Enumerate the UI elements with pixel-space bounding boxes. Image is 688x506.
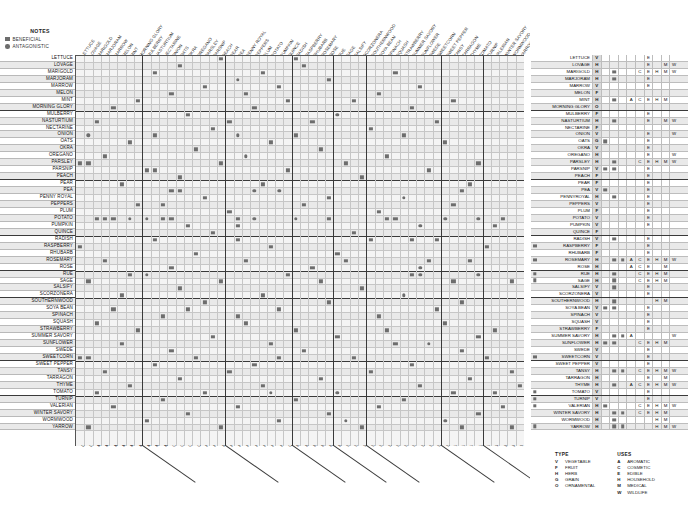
- beneficial-marker-icon: [186, 412, 190, 415]
- beneficial-marker-icon: [335, 335, 339, 338]
- row-label: WINTER SAVORY: [0, 410, 75, 417]
- attr-use-cell: [626, 145, 635, 151]
- check-marker-icon: [612, 237, 616, 240]
- attr-soil-improver-cell: [601, 194, 610, 200]
- attr-row-marker: [531, 90, 539, 96]
- beneficial-marker-icon: [435, 308, 439, 311]
- attr-type-cell: V: [592, 319, 601, 325]
- row-label: SAGE: [0, 278, 75, 285]
- attr-use-cell: W: [669, 118, 678, 124]
- attr-use-cell: E: [644, 208, 653, 214]
- attr-soil-improver-cell: [601, 278, 610, 284]
- attr-row-marker: [531, 340, 539, 346]
- attr-plant-name: PEPPERS: [539, 201, 592, 207]
- attr-repels-insects-cell: [609, 284, 618, 290]
- attr-type-cell: H: [592, 382, 601, 388]
- attribute-row: PENNYROYALHE: [531, 194, 688, 201]
- beneficial-marker-icon: [202, 391, 206, 394]
- beneficial-marker-icon: [227, 120, 231, 123]
- attr-plant-name: MULBERRY: [539, 111, 592, 117]
- row-label: MARJORAM: [0, 76, 75, 83]
- beneficial-marker-icon: [252, 363, 256, 366]
- beneficial-marker-icon: [509, 280, 513, 283]
- beneficial-marker-icon: [393, 342, 397, 345]
- attr-use-cell: E: [644, 187, 653, 193]
- attr-use-cell: [635, 187, 644, 193]
- attr-use-cell: [661, 215, 670, 221]
- attribute-row: PEPPERSVE: [531, 201, 688, 208]
- beneficial-marker-icon: [468, 182, 472, 185]
- attr-soil-improver-cell: [601, 347, 610, 353]
- attr-row-marker: [531, 424, 539, 430]
- attribute-row: RHUBARBFE: [531, 250, 688, 257]
- beneficial-marker-icon: [161, 217, 165, 220]
- companion-matrix[interactable]: [75, 55, 524, 446]
- attr-soil-improver-cell: [601, 208, 610, 214]
- attr-use-cell: [661, 222, 670, 228]
- attribute-row: OATSGE: [531, 138, 688, 145]
- beneficial-marker-icon: [460, 301, 464, 304]
- attr-plant-name: PARSNIP: [539, 166, 592, 172]
- beneficial-marker-icon: [153, 134, 157, 137]
- row-label: RADISH: [0, 236, 75, 243]
- attr-use-cell: [626, 354, 635, 360]
- attr-repels-insects-cell: [609, 326, 618, 332]
- attr-repels-insects-cell: [609, 291, 618, 297]
- attr-plant-name: NECTARINE: [539, 125, 592, 131]
- beneficial-marker-icon: [402, 134, 406, 137]
- attr-use-cell: [626, 201, 635, 207]
- beneficial-marker-icon: [178, 189, 182, 192]
- attr-use-cell: C: [635, 410, 644, 416]
- attr-use-cell: [669, 243, 678, 249]
- attr-use-cell: E: [644, 271, 653, 277]
- attr-attracts-bees-cell: [618, 111, 627, 117]
- beneficial-marker-icon: [327, 217, 331, 220]
- attr-type-cell: V: [592, 222, 601, 228]
- attr-attracts-bees-cell: [618, 333, 627, 339]
- attr-attracts-bees-cell: [618, 125, 627, 131]
- row-label: NASTURTIUM: [0, 118, 75, 125]
- attr-use-cell: H: [652, 69, 661, 75]
- attr-plant-name: SUMMER SAVORY: [539, 333, 592, 339]
- beneficial-marker-icon: [169, 189, 173, 192]
- attr-use-cell: [652, 361, 661, 367]
- attr-use-cell: H: [652, 410, 661, 416]
- beneficial-marker-icon: [476, 412, 480, 415]
- antagonistic-marker-icon: [128, 217, 131, 220]
- attr-repels-insects-cell: [609, 138, 618, 144]
- attr-use-cell: [635, 215, 644, 221]
- attr-use-cell: M: [661, 375, 670, 381]
- attr-use-cell: [635, 250, 644, 256]
- attr-use-cell: W: [669, 403, 678, 409]
- attr-soil-improver-cell: [601, 319, 610, 325]
- attr-use-cell: [635, 145, 644, 151]
- attr-soil-improver-cell: [601, 298, 610, 304]
- attr-plant-name: NASTURTIUM: [539, 118, 592, 124]
- attr-type-cell: H: [592, 278, 601, 284]
- check-marker-icon: [612, 161, 616, 164]
- attr-use-cell: [635, 76, 644, 82]
- row-label: TURNIP: [0, 396, 75, 403]
- attr-use-cell: [635, 83, 644, 89]
- check-marker-icon: [612, 286, 616, 289]
- attr-plant-name: SCORZONERA: [539, 291, 592, 297]
- attr-type-cell: H: [592, 333, 601, 339]
- attribute-row: VALERIANHCEHMW: [531, 403, 688, 410]
- attr-use-cell: [626, 298, 635, 304]
- attr-soil-improver-cell: [601, 62, 610, 68]
- beneficial-marker-icon: [352, 99, 356, 102]
- attr-use-cell: [626, 291, 635, 297]
- attr-use-cell: [635, 361, 644, 367]
- notes-title: NOTES: [5, 28, 75, 34]
- attr-plant-name: TANSY: [539, 368, 592, 374]
- attr-attracts-bees-cell: [618, 104, 627, 110]
- attr-soil-improver-cell: [601, 111, 610, 117]
- beneficial-marker-icon: [244, 92, 248, 95]
- attr-plant-name: PLUM: [539, 208, 592, 214]
- column-header-label: YARROW: [519, 445, 530, 448]
- attr-repels-insects-cell: [609, 229, 618, 235]
- attr-type-cell: V: [592, 312, 601, 318]
- attr-use-cell: [669, 83, 678, 89]
- attr-use-cell: E: [644, 222, 653, 228]
- attr-use-cell: [626, 375, 635, 381]
